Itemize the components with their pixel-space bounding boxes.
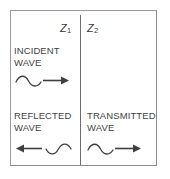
incident-wave-label-line2: WAVE: [14, 57, 60, 69]
incident-wave-glyph: [15, 73, 71, 89]
transmitted-wave-label-line1: TRANSMITTED: [87, 110, 156, 121]
wave-boundary-diagram: Z1 Z2 INCIDENT WAVE REFLECTED WAVE TRANS…: [0, 0, 170, 179]
impedance-label-left: Z1: [60, 22, 71, 35]
incident-arrow-head-icon: [61, 77, 69, 85]
impedance-right-subscript: 2: [94, 26, 98, 35]
reflected-wave-label-line2: WAVE: [14, 122, 71, 134]
impedance-left-subscript: 1: [67, 26, 71, 35]
incident-squiggle-icon: [16, 76, 41, 86]
transmitted-squiggle-icon: [88, 144, 113, 154]
reflected-squiggle-icon: [46, 144, 71, 154]
incident-wave-label-line1: INCIDENT: [14, 45, 60, 56]
transmitted-wave-glyph: [87, 141, 143, 157]
impedance-label-right: Z2: [87, 22, 98, 35]
incident-wave-label: INCIDENT WAVE: [14, 45, 60, 69]
reflected-wave-label: REFLECTED WAVE: [14, 110, 71, 134]
transmitted-wave-label: TRANSMITTED WAVE: [87, 110, 156, 134]
reflected-wave-label-line1: REFLECTED: [14, 110, 71, 121]
transmitted-wave-label-line2: WAVE: [87, 122, 156, 134]
reflected-wave-glyph: [15, 141, 73, 157]
reflected-arrow-head-icon: [16, 145, 24, 153]
interface-divider-line: [80, 15, 81, 165]
impedance-right-symbol: Z: [87, 22, 94, 34]
transmitted-arrow-head-icon: [133, 145, 141, 153]
impedance-left-symbol: Z: [60, 22, 67, 34]
